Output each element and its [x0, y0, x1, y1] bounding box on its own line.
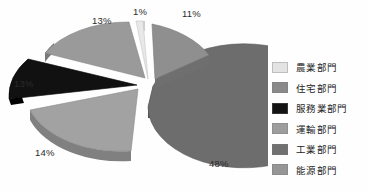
legend-label-residential: 住宅部門	[296, 81, 337, 95]
data-label-13-percent-services: 13%	[14, 78, 34, 89]
legend-swatch-agriculture	[272, 62, 288, 73]
legend-item-industry[interactable]: 工業部門	[272, 139, 367, 160]
data-label-13-percent-transport: 13%	[92, 15, 112, 26]
chart-legend: 農業部門 住宅部門 服務業部門 運輸部門 工業部門 能源部門	[272, 57, 367, 180]
data-label-14-percent: 14%	[35, 147, 55, 158]
data-label-1-percent: 1%	[133, 6, 147, 17]
legend-swatch-transport	[272, 123, 288, 134]
legend-label-energy: 能源部門	[296, 163, 337, 177]
legend-label-transport: 運輸部門	[296, 122, 337, 136]
legend-swatch-energy	[272, 164, 288, 175]
legend-item-residential[interactable]: 住宅部門	[272, 78, 367, 99]
legend-swatch-residential	[272, 82, 288, 93]
legend-swatch-industry	[272, 144, 288, 155]
chart-plot-area: 1% 11% 13% 13% 14% 48%	[0, 0, 268, 192]
legend-label-agriculture: 農業部門	[296, 60, 337, 74]
legend-item-energy[interactable]: 能源部門	[272, 160, 367, 181]
legend-swatch-services	[272, 103, 288, 114]
legend-label-services: 服務業部門	[296, 101, 348, 115]
legend-label-industry: 工業部門	[296, 142, 337, 156]
data-label-48-percent: 48%	[209, 158, 229, 169]
data-label-11-percent: 11%	[182, 8, 201, 19]
pie-chart-figure: 1% 11% 13% 13% 14% 48% 農業部門 住宅部門 服務業部門 運…	[0, 0, 367, 192]
legend-item-services[interactable]: 服務業部門	[272, 98, 367, 119]
legend-item-transport[interactable]: 運輸部門	[272, 119, 367, 140]
legend-item-agriculture[interactable]: 農業部門	[272, 57, 367, 78]
pie-slice-14-top	[30, 89, 138, 151]
